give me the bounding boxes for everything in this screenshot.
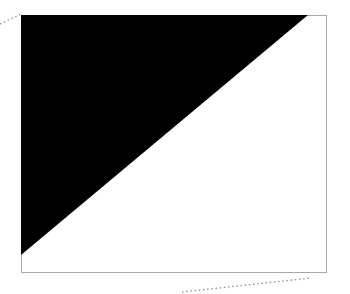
- figure-root: [0, 0, 350, 294]
- figure-canvas: [0, 0, 350, 294]
